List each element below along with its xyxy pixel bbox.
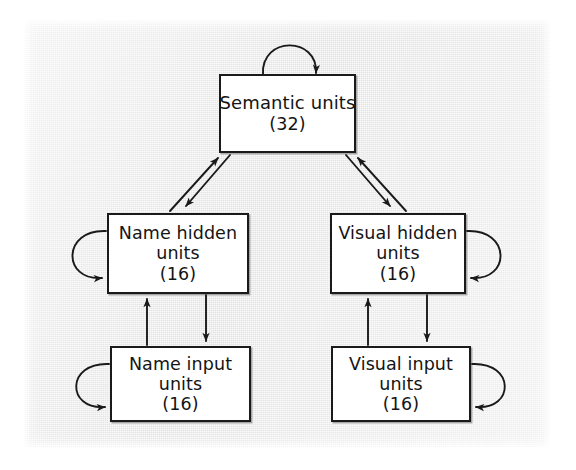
diagram-canvas: Semantic units (32) Name hidden units (1… (0, 0, 576, 470)
self-loop-visual-input (472, 364, 505, 407)
arrow-visual-hidden-to-semantic (358, 158, 406, 211)
self-loop-semantic (263, 45, 316, 74)
self-loop-name-input (76, 364, 109, 407)
node-semantic-units-count: (32) (269, 114, 305, 134)
self-loop-visual-hidden (467, 231, 501, 278)
node-name-hidden-units[interactable]: Name hidden units (16) (107, 213, 249, 294)
node-name-hidden-units-label-line2: units (156, 243, 200, 263)
node-name-input-units[interactable]: Name input units (16) (110, 346, 251, 422)
node-name-hidden-units-label: Name hidden (119, 223, 237, 243)
node-visual-hidden-units-label-line2: units (376, 243, 420, 263)
node-visual-hidden-units[interactable]: Visual hidden units (16) (330, 213, 466, 294)
arrow-semantic-to-visual-hidden (346, 155, 390, 206)
node-name-input-units-label-line2: units (159, 374, 203, 394)
arrow-semantic-to-name-hidden (186, 155, 230, 206)
node-visual-input-units[interactable]: Visual input units (16) (331, 346, 471, 422)
node-name-hidden-units-count: (16) (160, 264, 196, 284)
connection-layer (0, 0, 576, 470)
node-name-input-units-count: (16) (162, 394, 198, 414)
node-visual-hidden-units-count: (16) (380, 264, 416, 284)
arrow-name-hidden-to-semantic (170, 158, 218, 211)
node-visual-input-units-label-line2: units (379, 374, 423, 394)
node-name-input-units-label: Name input (129, 354, 232, 374)
node-semantic-units[interactable]: Semantic units (32) (219, 74, 356, 153)
node-semantic-units-label: Semantic units (220, 93, 356, 114)
node-visual-input-units-count: (16) (383, 394, 419, 414)
self-loop-name-hidden (72, 231, 106, 278)
node-visual-input-units-label: Visual input (349, 354, 453, 374)
node-visual-hidden-units-label: Visual hidden (338, 223, 457, 243)
